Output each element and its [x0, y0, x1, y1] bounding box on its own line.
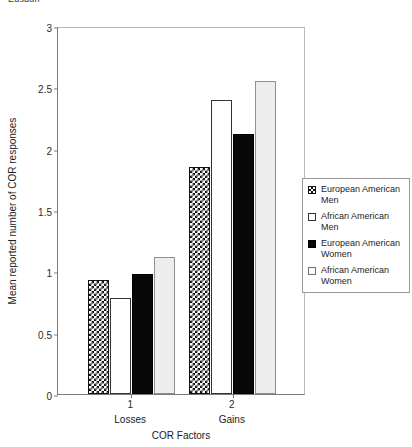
- x-axis-tick-number: 1: [127, 399, 133, 410]
- bar-losses-series-3: [154, 257, 175, 394]
- y-axis-tick-mark: [54, 396, 58, 397]
- bar-chart-figure: Mean reported number of COR responses 00…: [0, 0, 412, 447]
- legend-item-label: African American Men: [321, 211, 405, 233]
- y-axis-tick-label: 1.5: [38, 207, 52, 218]
- bar-gains-series-3: [255, 81, 276, 394]
- bar-gains-series-1: [211, 100, 232, 394]
- legend-swatch-icon: [308, 267, 316, 275]
- y-axis-tick-label: 3: [46, 23, 52, 34]
- legend-swatch-icon: [308, 213, 316, 221]
- y-axis-title-wrap: Mean reported number of COR responses: [14, 27, 32, 395]
- legend-item-label: African American Women: [321, 265, 405, 287]
- bar-losses-series-0: [88, 280, 109, 394]
- x-axis-tick-mark: [233, 394, 234, 398]
- y-axis-tick-mark: [54, 212, 58, 213]
- y-axis-tick-mark: [54, 273, 58, 274]
- legend-swatch-icon: [308, 186, 316, 194]
- legend-item[interactable]: European American Men: [308, 184, 405, 206]
- y-axis-tick-label: 0: [46, 391, 52, 402]
- bar-gains-series-2: [233, 134, 254, 394]
- bar-losses-series-1: [110, 298, 131, 394]
- y-axis-tick-mark: [54, 150, 58, 151]
- y-axis-tick-label: 2.5: [38, 84, 52, 95]
- bar-losses-series-2: [132, 274, 153, 394]
- y-axis-tick-label: 1: [46, 268, 52, 279]
- y-axis-tick-label: 2: [46, 145, 52, 156]
- legend-swatch-icon: [308, 240, 316, 248]
- y-axis-tick-mark: [54, 334, 58, 335]
- legend-item-label: European American Women: [321, 238, 405, 260]
- legend-item-label: European American Men: [321, 184, 405, 206]
- legend-item[interactable]: African American Women: [308, 265, 405, 287]
- legend-item[interactable]: European American Women: [308, 238, 405, 260]
- y-axis-tick-label: 0.5: [38, 329, 52, 340]
- y-axis-tick-mark: [54, 89, 58, 90]
- x-axis-tick-number: 2: [229, 399, 235, 410]
- legend: European American MenAfrican American Me…: [302, 178, 410, 293]
- x-axis-category-label: Losses: [114, 414, 146, 425]
- x-axis-category-label: Gains: [219, 414, 245, 425]
- bar-gains-series-0: [189, 167, 210, 394]
- plot-area: 00.511.522.53: [57, 27, 305, 395]
- x-axis-title: COR Factors: [152, 430, 210, 441]
- x-axis-tick-mark: [131, 394, 132, 398]
- legend-item[interactable]: African American Men: [308, 211, 405, 233]
- y-axis-title: Mean reported number of COR responses: [7, 118, 18, 305]
- y-axis-tick-mark: [54, 28, 58, 29]
